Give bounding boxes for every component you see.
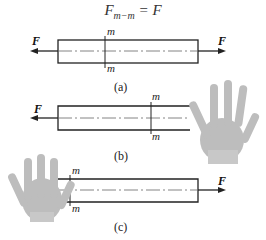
right-hand-icon <box>188 80 260 164</box>
section-label: m <box>107 62 115 74</box>
section-label: m <box>72 202 80 214</box>
section-label: m <box>152 130 160 142</box>
section-label: m <box>107 25 115 37</box>
force-label: F <box>218 34 226 49</box>
force-label: F <box>218 174 226 189</box>
caption: (a) <box>114 80 127 95</box>
figure-c <box>7 154 226 222</box>
figure-b <box>30 80 260 164</box>
section-label: m <box>72 164 80 176</box>
caption: (b) <box>114 149 128 164</box>
caption: (c) <box>114 220 127 235</box>
force-label: F <box>34 102 42 117</box>
left-hand-icon <box>7 154 76 222</box>
force-label: F <box>32 34 40 49</box>
figure-a <box>30 36 226 68</box>
section-label: m <box>152 90 160 102</box>
